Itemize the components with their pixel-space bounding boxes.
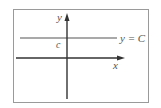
intercept-label: c: [56, 39, 61, 50]
y-axis-arrow-icon: [65, 13, 70, 21]
line-label: y = C: [119, 32, 146, 44]
y-axis-label: y: [56, 11, 62, 23]
graph: y c y = C x: [0, 0, 161, 108]
y-axis: [65, 13, 70, 99]
x-axis: [16, 56, 125, 61]
x-axis-arrow-icon: [117, 56, 125, 61]
x-axis-label: x: [112, 59, 118, 71]
